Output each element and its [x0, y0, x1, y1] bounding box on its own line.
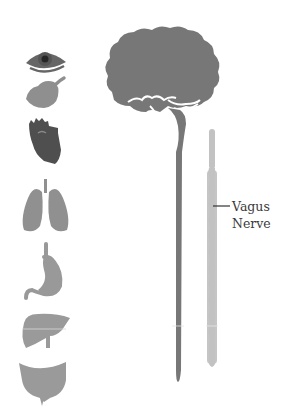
vagus-nerve-label: Vagus Nerve — [232, 198, 271, 232]
heart-icon — [29, 118, 61, 164]
gland-icon — [26, 78, 64, 108]
lungs-icon — [23, 179, 69, 231]
stomach-icon — [26, 244, 61, 298]
label-line2: Nerve — [232, 215, 271, 232]
eye-icon — [26, 52, 66, 72]
label-line1: Vagus — [232, 199, 270, 214]
liver-icon — [22, 314, 70, 348]
brain-icon — [105, 26, 219, 120]
vagus-nerve — [206, 129, 218, 367]
intestine-icon — [19, 362, 66, 406]
spinal-cord — [168, 108, 186, 382]
